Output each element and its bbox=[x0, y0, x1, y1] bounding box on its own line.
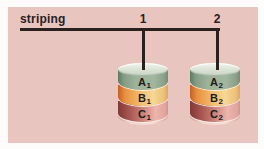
branch-1-number: 1 bbox=[136, 12, 150, 26]
stripe-subscript: 1 bbox=[147, 113, 151, 122]
stripe-letter: A bbox=[210, 76, 218, 88]
disk-1: A1 B1 C1 bbox=[118, 63, 168, 127]
stripe-letter: B bbox=[210, 92, 218, 104]
disk-2-stripe-c-label: C2 bbox=[207, 109, 223, 122]
disk-1-stripe-c-label: C1 bbox=[135, 109, 151, 122]
stripe-letter: C bbox=[210, 108, 218, 120]
disk-2-top-ellipse bbox=[190, 63, 240, 76]
disk-2: A2 B2 C2 bbox=[190, 63, 240, 127]
disk-2-stripe-b-label: B2 bbox=[207, 93, 223, 106]
stripe-subscript: 2 bbox=[219, 97, 223, 106]
figure-canvas: striping 1 2 A1 B1 C1 A2 B2 bbox=[0, 0, 264, 149]
striping-label: striping bbox=[20, 12, 66, 26]
stripe-subscript: 2 bbox=[219, 113, 223, 122]
disk-1-stripe-a-label: A1 bbox=[135, 77, 151, 90]
stripe-subscript: 2 bbox=[219, 81, 223, 90]
disk-2-stripe-a-label: A2 bbox=[207, 77, 223, 90]
branch-2-connector-line bbox=[216, 28, 219, 70]
stripe-letter: C bbox=[138, 108, 146, 120]
disk-1-stripe-b-label: B1 bbox=[135, 93, 151, 106]
stripe-subscript: 1 bbox=[147, 81, 151, 90]
branch-1-connector-line bbox=[142, 28, 145, 70]
stripe-letter: B bbox=[138, 92, 146, 104]
stripe-subscript: 1 bbox=[147, 97, 151, 106]
striping-diagram-panel: striping 1 2 A1 B1 C1 A2 B2 bbox=[8, 7, 258, 143]
bus-line bbox=[20, 28, 220, 31]
branch-2-number: 2 bbox=[210, 12, 224, 26]
stripe-letter: A bbox=[138, 76, 146, 88]
